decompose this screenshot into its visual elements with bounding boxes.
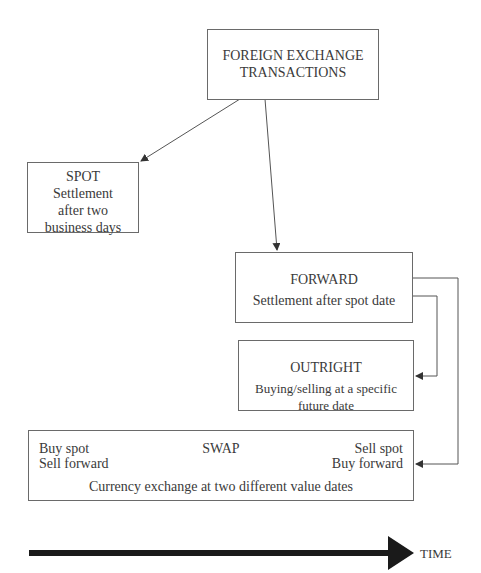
time-label: TIME [420,545,452,562]
spot-line3: business days [28,219,138,236]
swap-desc: Currency exchange at two different value… [29,478,413,495]
spot-line1: Settlement [28,185,138,202]
root-node: FOREIGN EXCHANGE TRANSACTIONS [207,29,379,100]
spot-node: SPOT Settlement after two business days [27,162,139,233]
spot-title: SPOT [28,168,138,185]
outright-node: OUTRIGHT Buying/selling at a specific fu… [238,340,414,411]
outright-desc: Buying/selling at a specific future date [239,380,413,414]
root-title-line2: TRANSACTIONS [208,64,378,81]
spot-line2: after two [28,202,138,219]
swap-left-line2: Sell forward [39,455,109,472]
root-title-line1: FOREIGN EXCHANGE [208,47,378,64]
forward-title: FORWARD [236,271,412,288]
forward-node: FORWARD Settlement after spot date [235,252,413,323]
outright-title: OUTRIGHT [239,359,413,376]
swap-node: Buy spot Sell forward SWAP Sell spot Buy… [28,430,414,501]
forward-desc: Settlement after spot date [236,292,412,309]
swap-right-line2: Buy forward [332,455,403,472]
